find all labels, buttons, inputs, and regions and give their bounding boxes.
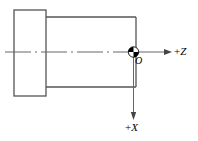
engineering-diagram: +Z +X O bbox=[0, 0, 198, 141]
x-axis-arrowhead bbox=[131, 112, 136, 120]
z-axis-letter: Z bbox=[180, 45, 186, 57]
x-axis-letter: X bbox=[131, 121, 138, 133]
flange-outline bbox=[14, 10, 46, 96]
x-axis-label: +X bbox=[125, 122, 138, 133]
diagram-canvas bbox=[0, 0, 198, 141]
origin-label: O bbox=[135, 56, 142, 66]
z-axis-arrowhead bbox=[164, 49, 172, 55]
z-axis-label: +Z bbox=[174, 46, 186, 57]
